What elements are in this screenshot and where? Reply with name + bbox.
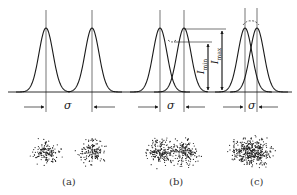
panel-c-intensity-curves <box>215 8 288 112</box>
sigma-label-a: σ <box>64 99 72 112</box>
panel-a-intensity-curves <box>16 10 122 112</box>
spot-patterns <box>30 135 276 169</box>
panel-label-c: (c) <box>250 176 263 187</box>
panel-label-b: (b) <box>169 176 183 187</box>
panel-label-a: (a) <box>62 176 76 187</box>
i-min-label: Imin <box>196 59 208 74</box>
sigma-label-b: σ <box>167 99 175 112</box>
resolution-diagram <box>0 0 297 195</box>
i-max-label: Imax <box>210 48 222 64</box>
sigma-label-c: σ <box>248 99 256 112</box>
